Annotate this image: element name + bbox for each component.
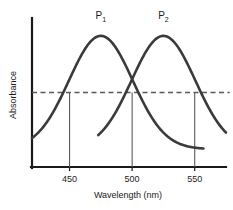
y-axis-title: Absorbance <box>8 71 18 119</box>
chart-canvas: P1 P2 450 500 550 Wavelength (nm) Absorb… <box>0 0 233 210</box>
absorbance-spectra-chart: P1 P2 450 500 550 Wavelength (nm) Absorb… <box>0 0 233 210</box>
x-tick-label-500: 500 <box>125 174 140 184</box>
x-tick-label-450: 450 <box>62 174 77 184</box>
peak-label-p2-subscript: 2 <box>165 16 169 23</box>
peak-label-p2: P2 <box>158 10 169 23</box>
x-axis-tick-labels: 450 500 550 <box>62 174 202 184</box>
peak-label-p1-subscript: 1 <box>102 16 106 23</box>
x-axis-title: Wavelength (nm) <box>94 190 162 200</box>
drop-lines-group <box>70 93 195 168</box>
peak-label-p1: P1 <box>96 10 107 23</box>
x-tick-label-550: 550 <box>187 174 202 184</box>
